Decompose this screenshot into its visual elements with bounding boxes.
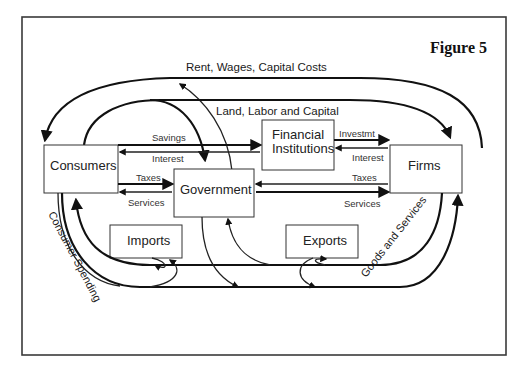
interest-consumer-label: Interest — [152, 153, 184, 164]
figure-title: Figure 5 — [430, 39, 487, 57]
financial-label-1: Financial — [272, 127, 324, 142]
land-labor-label: Land, Labor and Capital — [216, 105, 339, 117]
interest-firms-label: Interest — [352, 152, 384, 163]
government-label: Government — [180, 182, 252, 197]
consumers-label: Consumers — [50, 158, 117, 173]
rent-wages-label: Rent, Wages, Capital Costs — [186, 61, 327, 73]
financial-label-2: Institutions — [272, 141, 335, 156]
consumer-services-label: Services — [128, 197, 165, 208]
firm-services-label: Services — [344, 198, 381, 209]
firms-label: Firms — [408, 158, 441, 173]
firm-taxes-label: Taxes — [352, 172, 377, 183]
exports-label: Exports — [303, 233, 348, 248]
consumer-taxes-label: Taxes — [136, 172, 161, 183]
imports-label: Imports — [127, 233, 171, 248]
investment-label: Investmt — [339, 128, 375, 139]
circular-flow-diagram: Figure 5 Rent, Wages, Capital Costs Land… — [0, 0, 527, 374]
savings-label: Savings — [152, 132, 186, 143]
